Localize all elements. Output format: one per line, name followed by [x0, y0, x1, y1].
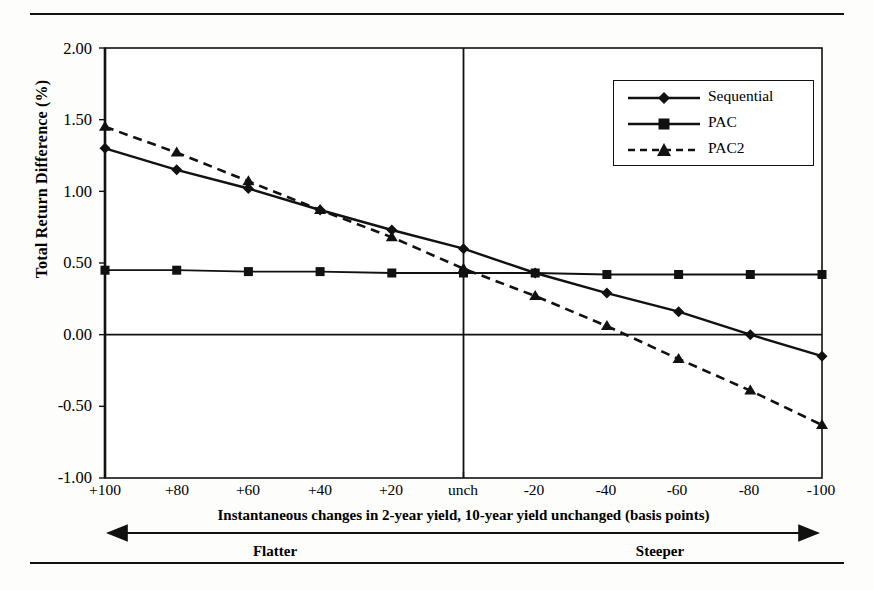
legend-label-pac: PAC	[708, 113, 737, 131]
chart-figure: Total Return Difference (%) 2.00 1.50 1.…	[0, 20, 874, 560]
legend-item-pac2[interactable]: PAC2	[622, 137, 807, 163]
top-divider-rule	[30, 13, 844, 15]
legend-item-sequential[interactable]: Sequential	[622, 85, 807, 111]
legend-marker-triangle-icon	[624, 137, 704, 163]
chart-legend: Sequential PAC PAC2	[613, 80, 814, 166]
legend-marker-square-icon	[624, 111, 704, 137]
legend-item-pac[interactable]: PAC	[622, 111, 807, 137]
figure-page: Total Return Difference (%) 2.00 1.50 1.…	[0, 0, 874, 590]
bottom-divider-rule	[30, 562, 844, 564]
legend-label-pac2: PAC2	[708, 139, 744, 157]
legend-marker-diamond-icon	[624, 85, 704, 111]
legend-label-sequential: Sequential	[708, 87, 773, 105]
